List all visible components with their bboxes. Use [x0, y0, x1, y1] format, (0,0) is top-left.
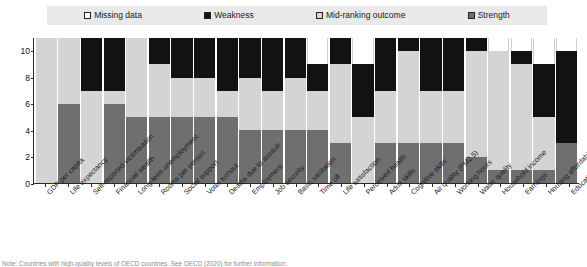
- bar-segment-weakness: [285, 38, 306, 78]
- x-tick-mark: [409, 183, 410, 187]
- x-tick-mark: [432, 183, 433, 187]
- bar-segment-mid: [239, 78, 260, 131]
- bar-segment-mid: [58, 38, 79, 104]
- bar-segment-mid: [420, 91, 441, 144]
- bar-segment-mid: [307, 91, 328, 131]
- x-tick-mark: [91, 183, 92, 187]
- bar-segment-weakness: [262, 38, 283, 91]
- x-tick-mark: [318, 183, 319, 187]
- x-tick-mark: [114, 183, 115, 187]
- bar-segment-weakness: [511, 51, 532, 64]
- plot-area: [33, 38, 579, 184]
- bar-segment-weakness: [352, 64, 373, 117]
- x-tick-mark: [227, 183, 228, 187]
- bar-segment-missing: [488, 38, 509, 51]
- x-tick-mark: [455, 183, 456, 187]
- y-tick-label: 6: [6, 100, 30, 109]
- bar-segment-weakness: [466, 38, 487, 51]
- chart-legend: Missing dataWeaknessMid-ranking outcomeS…: [47, 6, 547, 25]
- bar-segment-weakness: [194, 38, 215, 78]
- bar-segment-mid: [36, 38, 57, 183]
- x-tick-mark: [205, 183, 206, 187]
- legend-label: Missing data: [94, 11, 142, 20]
- x-tick-mark: [273, 183, 274, 187]
- y-tick-mark: [31, 51, 35, 52]
- y-tick-mark: [31, 157, 35, 158]
- x-tick-mark: [569, 183, 570, 187]
- bar-segment-missing: [556, 38, 577, 51]
- legend-label: Weakness: [214, 11, 254, 20]
- bar-segment-weakness: [217, 38, 238, 91]
- legend-item-missing[interactable]: Missing data: [84, 11, 142, 20]
- bar-segment-mid: [194, 78, 215, 118]
- legend-item-mid[interactable]: Mid-ranking outcome: [316, 11, 405, 20]
- legend-label: Strength: [478, 11, 510, 20]
- bar-segment-missing: [511, 38, 532, 51]
- bar-group: [34, 38, 579, 183]
- x-tick-mark: [387, 183, 388, 187]
- bar-segment-mid: [330, 64, 351, 143]
- bar-segment-weakness: [307, 64, 328, 90]
- bar-segment-mid: [375, 91, 396, 144]
- bar-segment-mid: [466, 51, 487, 156]
- y-tick-label: 2: [6, 153, 30, 162]
- x-tick-mark: [159, 183, 160, 187]
- x-tick-mark: [364, 183, 365, 187]
- y-tick-label: 10: [6, 47, 30, 56]
- bar-segment-weakness: [443, 38, 464, 91]
- bar-segment-weakness: [533, 64, 554, 117]
- y-tick-label: 0: [6, 180, 30, 189]
- y-tick-label: 8: [6, 74, 30, 83]
- bar-segment-mid: [511, 64, 532, 169]
- bar-segment-weakness: [171, 38, 192, 78]
- bar-segment-missing: [307, 38, 328, 64]
- legend-label: Mid-ranking outcome: [326, 11, 405, 20]
- legend-item-weakness[interactable]: Weakness: [204, 11, 254, 20]
- bar-segment-mid: [171, 78, 192, 118]
- bar-segment-missing: [352, 38, 373, 64]
- legend-swatch-missing-icon: [84, 12, 91, 19]
- x-tick-mark: [250, 183, 251, 187]
- bar-segment-mid: [217, 91, 238, 117]
- plot-wrapper: 0246810: [0, 34, 587, 189]
- bar-segment-missing: [533, 38, 554, 64]
- bar-segment-weakness: [239, 38, 260, 78]
- bar-segment-weakness: [420, 38, 441, 91]
- bar-segment-mid: [398, 51, 419, 143]
- x-axis-labels: GDP per capitaLife expectancySelf-report…: [33, 188, 579, 264]
- x-tick-mark: [296, 183, 297, 187]
- bar-segment-weakness: [330, 38, 351, 64]
- y-tick-mark: [31, 131, 35, 132]
- x-tick-mark: [546, 183, 547, 187]
- bar-segment-mid: [285, 78, 306, 131]
- y-tick-mark: [31, 78, 35, 79]
- x-tick-mark: [523, 183, 524, 187]
- bar-segment-mid: [443, 91, 464, 144]
- x-tick-mark: [500, 183, 501, 187]
- bar-segment-mid: [126, 38, 147, 117]
- x-tick-mark: [341, 183, 342, 187]
- bar-gdp-per-capita[interactable]: [36, 38, 57, 183]
- bar-segment-mid: [488, 51, 509, 170]
- legend-item-strength[interactable]: Strength: [468, 11, 510, 20]
- x-tick-mark: [68, 183, 69, 187]
- x-tick-mark: [45, 183, 46, 187]
- legend-swatch-weakness-icon: [204, 12, 211, 19]
- legend-swatch-mid-icon: [316, 12, 323, 19]
- chart-root: Missing dataWeaknessMid-ranking outcomeS…: [0, 0, 587, 267]
- bar-segment-weakness: [81, 38, 102, 91]
- y-tick-mark: [31, 104, 35, 105]
- y-tick-mark: [31, 184, 35, 185]
- x-tick-mark: [478, 183, 479, 187]
- bar-basic-sanitation[interactable]: [285, 38, 306, 183]
- y-tick-label: 4: [6, 127, 30, 136]
- x-tick-mark: [136, 183, 137, 187]
- bar-segment-weakness: [398, 38, 419, 51]
- bar-segment-mid: [104, 91, 125, 104]
- bar-segment-weakness: [104, 38, 125, 91]
- legend-swatch-strength-icon: [468, 12, 475, 19]
- bar-segment-weakness: [556, 51, 577, 143]
- bar-segment-weakness: [375, 38, 396, 91]
- bar-segment-mid: [262, 91, 283, 131]
- x-tick-mark: [182, 183, 183, 187]
